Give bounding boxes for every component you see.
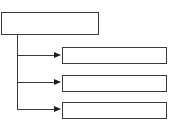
arrow-icon-3 [54,106,61,112]
child-box-1 [62,47,167,64]
child-box-3 [62,102,167,119]
root-box [1,12,99,35]
arrow-icon-1 [54,52,61,58]
arrow-icon-2 [54,79,61,85]
child-box-2 [62,75,167,92]
trunk-line [17,35,18,110]
connector-1 [17,55,55,56]
connector-3 [17,109,55,110]
connector-2 [17,82,55,83]
